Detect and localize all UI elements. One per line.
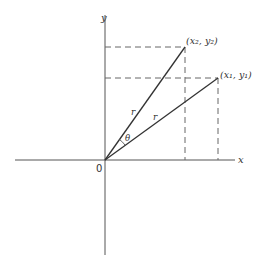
- segment-r1-label: r: [153, 112, 158, 122]
- x-axis-label: x: [238, 154, 244, 165]
- vector-r2: [105, 47, 185, 160]
- point-p2-label: (x₂, y₂): [186, 35, 218, 46]
- y-axis-label: y: [100, 12, 107, 23]
- angle-theta-label: θ: [125, 133, 130, 143]
- vector-r1: [105, 78, 218, 160]
- rotation-diagram: y x 0 (x₂, y₂) (x₁, y₁) r r θ: [0, 0, 262, 271]
- point-p1-label: (x₁, y₁): [220, 69, 252, 80]
- segment-r2-label: r: [131, 107, 136, 117]
- origin-label: 0: [96, 163, 102, 174]
